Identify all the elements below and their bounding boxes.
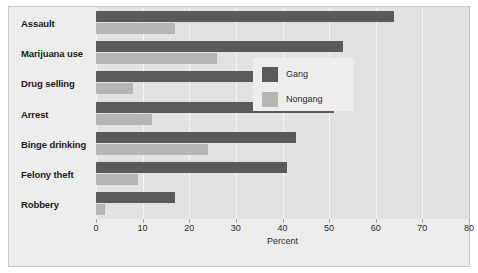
x-tick-label-0: 0 xyxy=(81,223,111,233)
bar-binge-drinking-nongang xyxy=(96,144,208,155)
bar-felony-theft-gang xyxy=(96,162,287,173)
legend-swatch-gang xyxy=(262,67,278,82)
legend-swatch-nongang xyxy=(262,92,278,107)
category-label-robbery: Robbery xyxy=(9,200,88,210)
x-tick-label-60: 60 xyxy=(361,223,391,233)
x-tick-label-50: 50 xyxy=(314,223,344,233)
chart-figure: AssaultMarijuana useDrug sellingArrestBi… xyxy=(0,0,478,273)
category-label-assault: Assault xyxy=(9,19,88,29)
legend-label-gang: Gang xyxy=(286,69,308,79)
x-tick-label-10: 10 xyxy=(128,223,158,233)
bar-marijuana-use-gang xyxy=(96,41,343,52)
category-label-felony-theft: Felony theft xyxy=(9,170,88,180)
bar-felony-theft-nongang xyxy=(96,174,138,185)
x-tick-label-30: 30 xyxy=(221,223,251,233)
gridline xyxy=(329,7,330,219)
category-label-arrest: Arrest xyxy=(9,110,88,120)
bar-assault-gang xyxy=(96,11,394,22)
x-axis-title: Percent xyxy=(253,236,313,246)
category-label-drug-selling: Drug selling xyxy=(9,79,88,89)
x-tick-label-70: 70 xyxy=(407,223,437,233)
bar-robbery-nongang xyxy=(96,204,105,215)
gridline xyxy=(189,7,190,219)
plot-area xyxy=(96,7,469,219)
gridline xyxy=(283,7,284,219)
legend-label-nongang: Nongang xyxy=(286,94,323,104)
gridline xyxy=(376,7,377,219)
bar-robbery-gang xyxy=(96,192,175,203)
bar-drug-selling-nongang xyxy=(96,83,133,94)
x-tick-label-20: 20 xyxy=(174,223,204,233)
x-tick-label-40: 40 xyxy=(268,223,298,233)
gridline xyxy=(422,7,423,219)
bar-assault-nongang xyxy=(96,23,175,34)
x-axis: 01020304050607080Percent xyxy=(96,219,469,249)
chart-legend: GangNongang xyxy=(253,58,354,111)
category-label-binge-drinking: Binge drinking xyxy=(9,140,88,150)
x-tick-label-80: 80 xyxy=(454,223,478,233)
category-label-marijuana-use: Marijuana use xyxy=(9,49,88,59)
bar-arrest-nongang xyxy=(96,114,152,125)
bar-marijuana-use-nongang xyxy=(96,53,217,64)
bar-binge-drinking-gang xyxy=(96,132,296,143)
gridline xyxy=(236,7,237,219)
